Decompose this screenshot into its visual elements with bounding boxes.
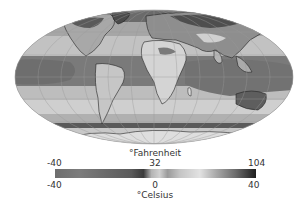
celsius-tick-min: -40 [47,180,62,190]
fahrenheit-unit-label: °Fahrenheit [129,148,181,158]
celsius-unit-label: °Celsius [137,190,173,200]
fahrenheit-tick-min: -40 [47,158,62,168]
fahrenheit-tick-mid: 32 [149,158,160,168]
fahrenheit-tick-max: 104 [248,158,265,168]
map-body [0,0,300,150]
celsius-tick-mid: 0 [152,180,158,190]
world-temperature-map [0,0,300,150]
celsius-tick-max: 40 [248,180,259,190]
temperature-colorbar [55,169,256,178]
